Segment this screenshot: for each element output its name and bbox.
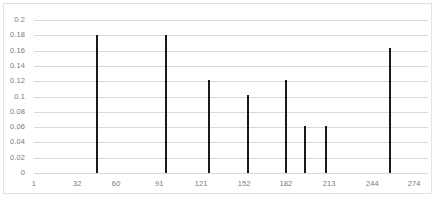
y-gridline <box>34 142 428 143</box>
x-axis-tick-label: 121 <box>181 180 221 188</box>
y-axis-tick-label: 0.12 <box>0 77 25 85</box>
y-axis-tick-label: 0.06 <box>0 123 25 131</box>
y-gridline <box>34 112 428 113</box>
chart-bar <box>325 126 327 173</box>
chart-bar <box>96 35 98 173</box>
y-gridline <box>34 81 428 82</box>
chart-bar <box>247 95 249 173</box>
x-axis-tick-label: 152 <box>224 180 264 188</box>
x-axis-tick-label: 60 <box>96 180 136 188</box>
chart-plot-wrapper: 0.20.180.160.140.120.10.080.060.040.0201… <box>4 4 433 195</box>
y-axis-tick-label: 0.04 <box>0 138 25 146</box>
y-gridline <box>34 173 428 174</box>
y-axis-tick-label: 0.18 <box>0 31 25 39</box>
chart-bar <box>208 80 210 173</box>
x-axis-tick-label: 274 <box>394 180 434 188</box>
y-gridline <box>34 127 428 128</box>
y-axis-tick-label: 0.2 <box>0 16 25 24</box>
y-axis-tick-label: 0.1 <box>0 93 25 101</box>
y-axis-tick-label: 0.08 <box>0 108 25 116</box>
x-axis-tick-label: 91 <box>139 180 179 188</box>
chart-bar <box>165 35 167 173</box>
chart-frame: 0.20.180.160.140.120.10.080.060.040.0201… <box>3 3 432 194</box>
x-axis-tick-label: 1 <box>14 180 54 188</box>
chart-plot-area: 0.20.180.160.140.120.10.080.060.040.0201… <box>34 20 428 173</box>
y-gridline <box>34 20 428 21</box>
y-gridline <box>34 66 428 67</box>
y-axis-tick-label: 0.16 <box>0 47 25 55</box>
chart-bar <box>389 48 391 173</box>
y-gridline <box>34 35 428 36</box>
x-axis-tick-label: 32 <box>57 180 97 188</box>
y-axis-tick-label: 0 <box>0 169 25 177</box>
y-gridline <box>34 158 428 159</box>
chart-bar <box>304 126 306 173</box>
y-gridline <box>34 51 428 52</box>
x-axis-tick-label: 213 <box>309 180 349 188</box>
x-axis-tick-label: 244 <box>352 180 392 188</box>
y-gridline <box>34 97 428 98</box>
y-axis-tick-label: 0.02 <box>0 154 25 162</box>
y-axis-tick-label: 0.14 <box>0 62 25 70</box>
chart-bar <box>285 80 287 173</box>
x-axis-tick-label: 182 <box>266 180 306 188</box>
